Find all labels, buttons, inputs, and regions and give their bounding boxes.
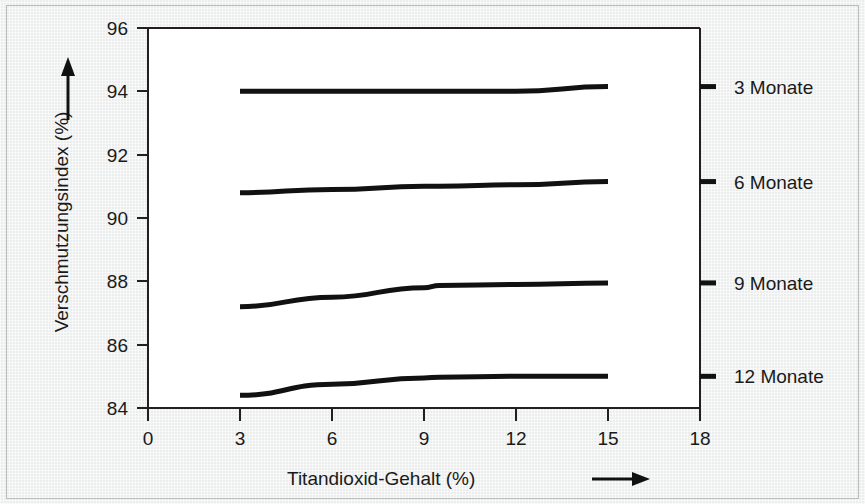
series-label-text: 9 Monate: [734, 273, 813, 294]
x-axis-title: Titandioxid-Gehalt (%): [287, 468, 475, 489]
x-axis-tick-labels: 0 3 6 9 12 15 18: [143, 428, 711, 449]
y-tick-label: 92: [107, 145, 128, 166]
y-tick-label: 94: [107, 81, 129, 102]
x-axis-ticks: [148, 408, 700, 421]
x-tick-label: 0: [143, 428, 154, 449]
y-tick-label: 88: [107, 271, 128, 292]
figure-container: 96 94 92 90 88 86 84 0 3 6 9 12 15 18: [0, 0, 865, 504]
series-label-text: 6 Monate: [734, 172, 813, 193]
series-labels: 3 Monate6 Monate9 Monate12 Monate: [700, 77, 824, 388]
y-axis-arrow-icon: [61, 57, 75, 120]
y-tick-label: 90: [107, 208, 128, 229]
x-tick-label: 9: [419, 428, 430, 449]
y-axis-tick-labels: 96 94 92 90 88 86 84: [107, 18, 129, 419]
y-axis-ticks: [137, 28, 148, 408]
series-label-3-monate: 3 Monate: [700, 77, 813, 98]
series-label-text: 12 Monate: [734, 366, 824, 387]
x-tick-label: 6: [327, 428, 338, 449]
x-tick-label: 15: [597, 428, 618, 449]
series-label-9-monate: 9 Monate: [700, 273, 813, 294]
x-axis-arrow-icon: [592, 472, 650, 486]
x-tick-label: 12: [505, 428, 526, 449]
y-axis-title: Verschmutzungsindex (%): [51, 112, 72, 333]
x-tick-label: 3: [235, 428, 246, 449]
series-label-text: 3 Monate: [734, 77, 813, 98]
plot-area-background: [148, 28, 700, 408]
y-tick-label: 96: [107, 18, 128, 39]
x-tick-label: 18: [689, 428, 710, 449]
series-label-12-monate: 12 Monate: [700, 366, 824, 387]
series-label-6-monate: 6 Monate: [700, 172, 813, 193]
line-chart: 96 94 92 90 88 86 84 0 3 6 9 12 15 18: [0, 0, 865, 504]
y-tick-label: 84: [107, 398, 129, 419]
y-tick-label: 86: [107, 335, 128, 356]
